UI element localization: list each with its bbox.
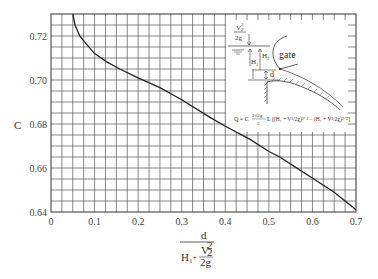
inset-formula-body: [(H₁ + V²/2g)³ᐟ² − (H₁ + V²/2g)³ᐟ²]: [272, 116, 350, 123]
x-tick-label: 0.2: [132, 216, 145, 227]
x-tick-label: 0.6: [306, 216, 319, 227]
x-tick-label: 0.1: [88, 216, 101, 227]
y-tick-label: 0.66: [30, 163, 48, 174]
inset-d-label: d: [270, 70, 274, 79]
x-tick-label: 0.7: [350, 216, 363, 227]
y-tick-label: 0.68: [30, 119, 48, 130]
x-tick-label: 0.4: [219, 216, 232, 227]
inset-formula-coef-num: 2√2g: [252, 113, 263, 118]
x-label-frac-den: 2g: [200, 256, 212, 268]
x-tick-label: 0: [49, 216, 54, 227]
y-tick-label: 0.72: [30, 31, 48, 42]
inset-gate-label: gate: [279, 49, 296, 60]
inset-formula-L: L: [267, 116, 271, 122]
x-tick-labels: 00.10.20.30.40.50.60.7: [49, 216, 363, 227]
x-tick-label: 0.5: [263, 216, 276, 227]
y-tick-label: 0.64: [30, 207, 48, 218]
inset-head-den: 2g: [235, 34, 243, 42]
x-axis-label: d H1+ V 2 2 2g: [180, 229, 214, 268]
x-tick-label: 0.3: [175, 216, 188, 227]
y-tick-label: 0.70: [30, 75, 48, 86]
y-tick-labels: 0.640.660.680.700.72: [30, 31, 48, 218]
x-label-denominator: H1+: [181, 251, 197, 265]
inset-formula-lhs: Q = C: [234, 116, 249, 122]
chart-canvas: V 2 2 2g H1 H2 gate d: [0, 0, 378, 279]
y-axis-label: C: [14, 119, 21, 131]
inset-diagram: V 2 2 2g H1 H2 gate d: [226, 20, 350, 132]
